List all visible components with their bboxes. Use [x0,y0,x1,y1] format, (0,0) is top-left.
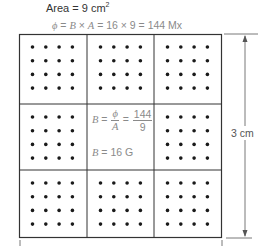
flux-dot [112,45,116,49]
flux-dot [179,129,183,133]
flux-dot [206,195,210,199]
flux-dot [57,115,61,119]
flux-dot [166,86,170,90]
flux-dot [57,222,61,226]
flux-dot [206,222,210,226]
flux-dot [71,222,75,226]
flux-dot [112,195,116,199]
flux-dot [57,181,61,185]
flux-dot [99,181,103,185]
flux-dot [192,45,196,49]
flux-dot [125,195,129,199]
flux-dot [139,222,143,226]
flux-dot [71,73,75,77]
flux-dot [71,195,75,199]
flux-dot [57,59,61,63]
flux-dot [192,156,196,160]
flux-dot [192,143,196,147]
flux-dot [206,143,210,147]
flux-dot [44,115,48,119]
flux-dot [31,143,35,147]
flux-dot [99,86,103,90]
flux-dot [71,86,75,90]
flux-dot [206,181,210,185]
flux-dot [31,86,35,90]
flux-dot [166,209,170,213]
flux-density-result: B = 16 G [92,146,133,158]
flux-dot [57,45,61,49]
flux-dot [57,129,61,133]
flux-dot [179,156,183,160]
flux-dot [179,45,183,49]
flux-dot [57,143,61,147]
flux-dot [31,129,35,133]
flux-dot [179,59,183,63]
flux-dot [125,86,129,90]
flux-dot [179,73,183,77]
flux-dot [31,195,35,199]
flux-dot [57,156,61,160]
flux-dot [139,181,143,185]
flux-dot [31,45,35,49]
flux-dot [112,209,116,213]
flux-dot [99,59,103,63]
flux-dot [179,195,183,199]
flux-dot [31,156,35,160]
flux-dot [44,59,48,63]
flux-dot [31,222,35,226]
flux-dot [166,181,170,185]
flux-dot [31,73,35,77]
flux-dot [99,209,103,213]
flux-dot [166,222,170,226]
flux-dot [44,156,48,160]
flux-dot [57,195,61,199]
flux-dot [166,129,170,133]
flux-dot [192,73,196,77]
flux-dot [71,129,75,133]
flux-dot [57,73,61,77]
flux-dot [192,181,196,185]
flux-dot [57,86,61,90]
flux-dot [125,59,129,63]
flux-dot [166,59,170,63]
flux-dot [31,209,35,213]
flux-dot [179,181,183,185]
flux-dot [125,181,129,185]
flux-dot [44,45,48,49]
flux-dot [139,59,143,63]
flux-dot [166,115,170,119]
flux-density-formula: B = ϕA = 1449 [92,108,153,133]
flux-dot [44,181,48,185]
flux-dot [179,115,183,119]
flux-dot [71,156,75,160]
flux-dot [44,222,48,226]
flux-dot [166,195,170,199]
outer-square [20,35,222,238]
flux-dot [71,209,75,213]
flux-dot [192,86,196,90]
flux-dot [112,222,116,226]
flux-dot [192,195,196,199]
flux-dot [139,73,143,77]
flux-dot [44,143,48,147]
flux-dot [125,222,129,226]
flux-dot [192,209,196,213]
flux-dot [206,156,210,160]
flux-dot [44,86,48,90]
flux-dot [71,143,75,147]
flux-dot [71,181,75,185]
flux-dot [139,209,143,213]
flux-dot [206,45,210,49]
flux-dot [112,86,116,90]
flux-dot [179,222,183,226]
flux-dot [125,209,129,213]
flux-dot [206,59,210,63]
flux-dot [139,45,143,49]
flux-dot [57,209,61,213]
flux-dot [31,115,35,119]
flux-dot [31,181,35,185]
flux-dot [71,59,75,63]
flux-dot [166,45,170,49]
flux-dots [31,45,210,226]
flux-dot [139,86,143,90]
